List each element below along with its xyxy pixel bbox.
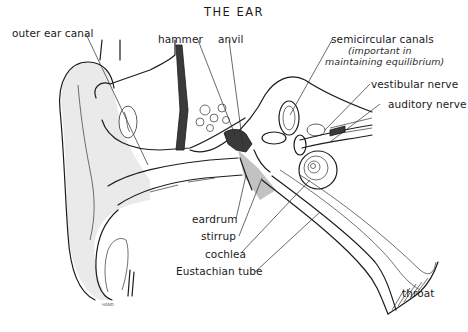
leader-auditory-nerve: [330, 104, 380, 142]
leader-vestibular-nerve: [325, 84, 370, 130]
label-stirrup: stirrup: [201, 230, 236, 242]
label-hammer: hammer: [158, 33, 203, 45]
label-outer-ear-canal: outer ear canal: [12, 27, 94, 39]
ossicles: [224, 129, 276, 200]
inner-ear: [262, 101, 337, 189]
label-anvil: anvil: [218, 33, 244, 45]
label-auditory-nerve: auditory nerve: [388, 98, 467, 110]
label-throat: throat: [402, 287, 434, 299]
label-semicircular-canals: semicircular canals: [331, 33, 434, 45]
auricle: [60, 62, 150, 300]
artist-signature: HAND: [102, 302, 114, 307]
label-eardrum: eardrum: [192, 213, 238, 225]
label-eustachian-tube: Eustachian tube: [176, 265, 262, 277]
label-cochlea: cochlea: [205, 248, 246, 260]
label-semicircular-note-line2: maintaining equilibrium): [325, 56, 444, 68]
label-vestibular-nerve: vestibular nerve: [371, 78, 458, 90]
leader-eustachian-tube: [255, 212, 320, 272]
diagram-title: THE EAR: [0, 5, 468, 19]
ear-diagram: THE EAR outer ear canal hammer anvil sem…: [0, 0, 468, 332]
